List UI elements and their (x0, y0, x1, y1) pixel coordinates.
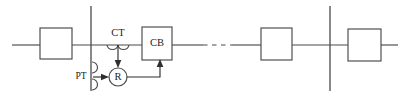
load-box-right (348, 29, 381, 61)
pt-arc-upper (92, 62, 98, 73)
cb-label: CB (150, 37, 164, 48)
ct-arc-right (118, 45, 129, 50)
ct-secondary-arrow-icon (115, 60, 122, 68)
ct-arc-left (107, 45, 118, 50)
pt-arc-lower (92, 79, 98, 90)
pt-label: PT (75, 71, 86, 81)
relay-label: R (114, 71, 121, 82)
load-box-mid (261, 28, 292, 60)
load-box-left (40, 28, 72, 59)
schematic-canvas: CT CB R PT (0, 0, 402, 96)
pt-secondary-arrow-icon (101, 74, 109, 81)
ct-label: CT (111, 27, 125, 38)
trip-circuit-wire (127, 66, 160, 77)
one-line-diagram: CT CB R PT (0, 0, 402, 96)
